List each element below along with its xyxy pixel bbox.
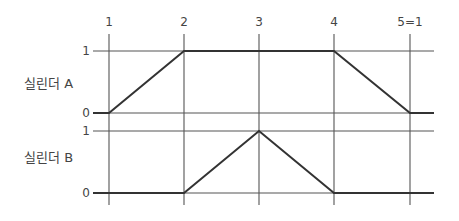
step-gridlines: [109, 34, 410, 205]
cylinder-a-trace: [93, 51, 434, 113]
cylinder-b-trace: [93, 131, 434, 193]
step-label-2: 2: [180, 15, 188, 29]
step-label-4: 4: [330, 15, 338, 29]
step-labels: 1 2 3 4 5=1: [105, 15, 422, 29]
step-label-3: 3: [255, 15, 263, 29]
cylinder-b-high-label: 1: [82, 124, 90, 138]
step-label-5: 5=1: [397, 15, 422, 29]
level-gridlines: [93, 51, 434, 193]
cylinder-b-label: 실린더 B: [24, 150, 73, 165]
cylinder-a-label: 실린더 A: [24, 76, 73, 91]
cylinder-a-low-label: 0: [82, 106, 90, 120]
step-label-1: 1: [105, 15, 113, 29]
level-labels: 1 0 1 0: [82, 44, 90, 200]
displacement-step-diagram: 1 2 3 4 5=1 1 0 1 0 실린더 A 실린더 B: [0, 0, 459, 221]
cylinder-b-low-label: 0: [82, 186, 90, 200]
cylinder-a-high-label: 1: [82, 44, 90, 58]
